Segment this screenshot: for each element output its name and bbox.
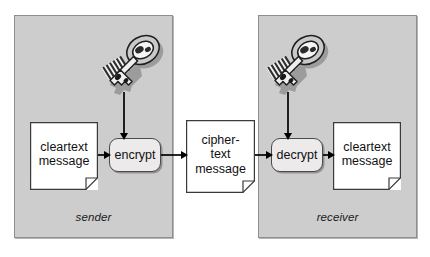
arrow-encrypt-to-ciphertext [161, 147, 188, 163]
arrow-ciphertext-to-decrypt [255, 147, 273, 163]
panel-sender-label: sender [15, 211, 172, 223]
arrow-decrypt-to-cleartext [323, 147, 335, 163]
process-encrypt: encrypt [109, 138, 161, 172]
key-icon [262, 26, 336, 100]
process-encrypt-label: encrypt [115, 148, 156, 162]
panel-receiver-label: receiver [259, 211, 416, 223]
document-cleartext-message-receiver: cleartext message [333, 122, 401, 190]
document-cleartext-message-sender: cleartext message [30, 122, 98, 190]
document-label: cleartext message [39, 140, 90, 173]
document-ciphertext-message: cipher- text message [186, 120, 255, 193]
document-label: cleartext message [342, 140, 393, 173]
diagram-canvas: sender receiver [0, 0, 430, 257]
process-decrypt: decrypt [271, 138, 323, 172]
arrow-cleartext-to-encrypt [98, 147, 111, 163]
arrow-key-to-decrypt [280, 92, 296, 140]
key-icon [97, 26, 171, 100]
arrow-key-to-encrypt [116, 92, 132, 140]
document-label: cipher- text message [195, 133, 246, 181]
process-decrypt-label: decrypt [277, 148, 318, 162]
